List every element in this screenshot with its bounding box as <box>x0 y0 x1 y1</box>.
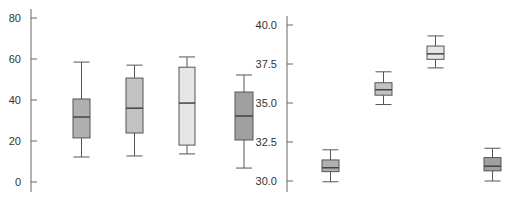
y-tick-label: 37.5 <box>256 58 277 70</box>
y-tick-label: 35.0 <box>256 97 277 109</box>
iqr-box <box>126 78 143 133</box>
box-whisker-item <box>126 65 143 156</box>
y-tick-label: 40 <box>9 94 21 106</box>
box-whisker-item <box>73 62 90 157</box>
box-whisker-item <box>235 75 253 168</box>
iqr-box <box>179 67 195 145</box>
box-whisker-item <box>322 150 339 182</box>
boxplot-figure: 020406080 30.032.535.037.540.0 <box>0 0 514 201</box>
y-tick-label: 40.0 <box>256 19 277 31</box>
iqr-box <box>73 99 90 138</box>
box-whisker-item <box>427 36 444 68</box>
y-tick-label: 0 <box>15 176 21 188</box>
y-tick-label: 80 <box>9 12 21 24</box>
iqr-box <box>322 160 339 172</box>
y-tick-label: 30.0 <box>256 175 277 187</box>
left-boxplot-panel: 020406080 <box>9 9 253 192</box>
iqr-box <box>375 83 392 95</box>
y-tick-label: 60 <box>9 53 21 65</box>
y-tick-label: 32.5 <box>256 136 277 148</box>
box-whisker-item <box>484 148 501 181</box>
y-tick-label: 20 <box>9 135 21 147</box>
box-whisker-item <box>375 72 392 105</box>
box-whisker-item <box>179 57 195 154</box>
iqr-box <box>427 46 444 59</box>
iqr-box <box>484 158 501 171</box>
right-boxplot-panel: 30.032.535.037.540.0 <box>256 16 501 192</box>
